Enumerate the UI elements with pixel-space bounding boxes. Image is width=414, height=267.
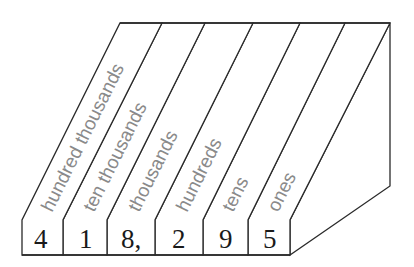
- digit-hundreds: 2: [172, 224, 186, 254]
- digit-thousands: 8,: [121, 224, 141, 254]
- digit-ones: 5: [263, 224, 277, 254]
- digit-ten-thousands: 1: [79, 224, 93, 254]
- place-value-diagram: hundred thousands ten thousands thousand…: [0, 0, 414, 267]
- digit-tens: 9: [219, 224, 233, 254]
- digit-hundred-thousands: 4: [34, 224, 48, 254]
